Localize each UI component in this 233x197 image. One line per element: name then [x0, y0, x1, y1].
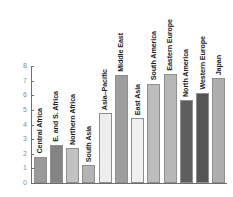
y-axis-tick-label-text: 7 — [16, 77, 27, 84]
bar[interactable] — [34, 157, 47, 183]
bar-category-label: North America — [182, 49, 189, 97]
bar[interactable] — [66, 148, 79, 183]
bar-category-label: Asia–Pacific — [101, 69, 108, 110]
bar[interactable] — [50, 145, 63, 183]
y-axis-tick-label-text: 8 — [16, 62, 27, 69]
bar-category-label: Japan — [215, 55, 222, 75]
bar[interactable] — [131, 118, 144, 183]
y-axis-tick-label-text: 6 — [16, 91, 27, 98]
y-axis-tick-label: 5 — [16, 106, 28, 113]
y-axis-tick-label: 0 — [16, 179, 28, 186]
bar-category-label: Middle East — [117, 33, 124, 72]
bar-category-label: South America — [150, 31, 157, 80]
y-axis-tick-label: 8 — [16, 62, 28, 69]
plot-area: Central AfricaE. and S. AfricaNorthern A… — [32, 66, 227, 183]
y-axis-tick-label-text: 0 — [16, 179, 27, 186]
bar[interactable] — [196, 93, 209, 183]
bar[interactable] — [99, 113, 112, 183]
bar-chart: 012345678 Central AfricaE. and S. Africa… — [0, 0, 233, 197]
bar[interactable] — [212, 78, 225, 183]
bar[interactable] — [180, 100, 193, 183]
y-axis-tick-label: 6 — [16, 91, 28, 98]
y-axis-tick-label-text: 5 — [16, 106, 27, 113]
y-axis-tick-label-text: 1 — [16, 164, 27, 171]
bar-category-label: Western Europe — [199, 36, 206, 90]
y-axis-tick-label: 4 — [16, 121, 28, 128]
bar-category-label: E. and S. Africa — [52, 91, 59, 142]
bar[interactable] — [115, 75, 128, 183]
y-axis-tick-label: 7 — [16, 77, 28, 84]
bar[interactable] — [147, 84, 160, 183]
bar[interactable] — [164, 74, 177, 183]
bar-category-label: Central Africa — [36, 108, 43, 153]
bar-category-label: East Asia — [134, 84, 141, 115]
bar-category-label: Northern Africa — [69, 94, 76, 145]
y-axis-tick-label: 3 — [16, 135, 28, 142]
y-axis-tick-label: 2 — [16, 150, 28, 157]
y-axis-tick-label: 1 — [16, 164, 28, 171]
bar-category-label: South Asia — [85, 126, 92, 162]
y-axis-tick-label-text: 4 — [16, 121, 27, 128]
y-axis-tick-label-text: 3 — [16, 135, 27, 142]
bar-category-label: Eastern Europe — [166, 19, 173, 71]
x-axis-line — [31, 183, 227, 184]
y-axis-tick-label-text: 2 — [16, 150, 27, 157]
bar[interactable] — [82, 165, 95, 183]
